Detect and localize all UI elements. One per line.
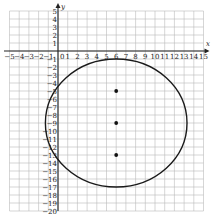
data-point	[114, 89, 118, 93]
x-tick-label: 4	[95, 53, 100, 61]
y-tick-label: 4	[53, 16, 58, 24]
y-tick-label: −4	[47, 80, 58, 88]
y-tick-labels: 54321−1−2−3−4−5−6−7−8−9−10−11−12−13−14−1…	[42, 8, 57, 216]
x-tick-label: 1	[65, 53, 69, 61]
y-tick-label: 5	[53, 8, 57, 16]
y-tick-label: −14	[42, 160, 57, 168]
x-tick-label: 9	[143, 53, 147, 61]
data-point	[114, 153, 118, 157]
y-tick-label: −8	[47, 112, 57, 120]
data-point	[114, 121, 118, 125]
x-tick-label: 13	[180, 53, 189, 61]
y-axis-label: y	[60, 3, 66, 11]
y-tick-label: −17	[42, 184, 57, 192]
y-tick-label: −18	[42, 192, 57, 200]
x-tick-label: 8	[133, 53, 137, 61]
y-tick-label: −1	[47, 56, 57, 64]
y-tick-label: −19	[42, 200, 57, 208]
y-tick-label: 3	[53, 24, 57, 32]
x-tick-label: 10	[151, 53, 160, 61]
grid-lines	[10, 11, 204, 211]
x-tick-label: 2	[75, 53, 79, 61]
x-tick-label: 3	[85, 53, 89, 61]
y-tick-label: −10	[42, 128, 57, 136]
y-tick-label: −11	[42, 136, 57, 144]
x-tick-label: 14	[189, 53, 198, 61]
x-tick-label: 15	[199, 53, 208, 61]
y-tick-label: 2	[53, 32, 57, 40]
x-tick-label: 12	[170, 53, 179, 61]
y-tick-label: −9	[47, 120, 57, 128]
x-tick-label: 6	[114, 53, 119, 61]
x-axis-label: x	[206, 40, 210, 48]
y-tick-label: −2	[47, 64, 57, 72]
origin-label: 0	[60, 53, 64, 61]
y-tick-label: −20	[42, 208, 57, 216]
y-tick-label: −3	[47, 72, 57, 80]
y-tick-label: −16	[42, 176, 57, 184]
y-tick-label: 1	[53, 40, 57, 48]
coordinate-plane: −5−4−3−2−11234567891011121314150 54321−1…	[0, 0, 215, 220]
x-tick-label: 11	[160, 53, 169, 61]
y-tick-label: −15	[42, 168, 57, 176]
